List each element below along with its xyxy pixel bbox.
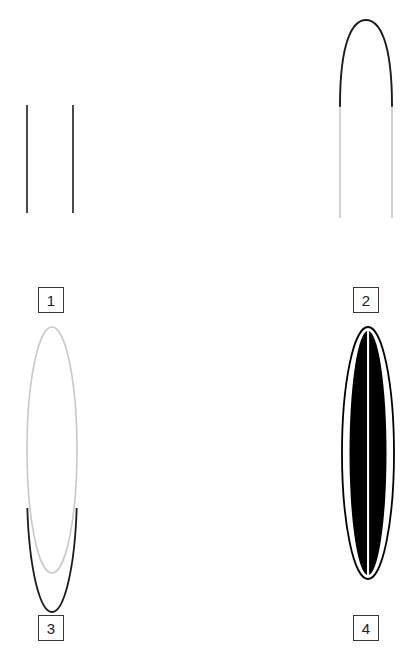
panel-label-4: 4 xyxy=(353,615,379,641)
panel-3 xyxy=(0,325,210,651)
panel-label-2-text: 2 xyxy=(362,293,370,308)
ellipse-outline-light xyxy=(27,327,77,573)
arch-apex-curve xyxy=(340,20,392,106)
panel-1 xyxy=(0,0,210,325)
panel-label-4-text: 4 xyxy=(362,621,370,636)
panel-2 xyxy=(210,0,419,325)
panel-4 xyxy=(210,325,419,651)
panel-4-graphic xyxy=(210,325,419,651)
panel-2-graphic xyxy=(210,0,419,325)
ellipse-arc-dark-bottom xyxy=(27,508,76,612)
center-white-stripe xyxy=(367,325,369,651)
panel-label-1-text: 1 xyxy=(47,293,55,308)
panel-1-graphic xyxy=(0,0,210,325)
panel-3-graphic xyxy=(0,325,210,651)
panel-label-2: 2 xyxy=(353,287,379,313)
figure-root: 1 2 3 4 xyxy=(0,0,419,651)
panel-label-3-text: 3 xyxy=(47,621,55,636)
panel-label-3: 3 xyxy=(38,615,64,641)
panel-label-1: 1 xyxy=(38,287,64,313)
